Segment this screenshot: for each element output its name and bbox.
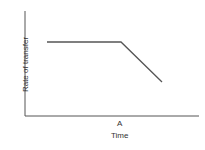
x-axis-label: Time <box>111 131 128 140</box>
chart-plot <box>0 0 205 150</box>
y-axis-label: Rate of transfer <box>21 30 30 100</box>
rate-line <box>47 42 162 82</box>
x-tick-a: A <box>117 119 122 128</box>
